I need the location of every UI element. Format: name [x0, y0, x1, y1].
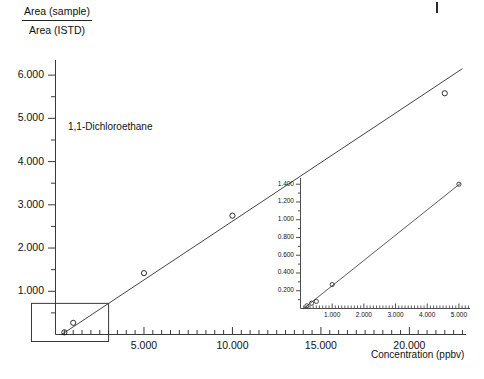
main-plot-canvas	[0, 0, 484, 379]
inset-y-tick-label: 0.200	[262, 286, 294, 293]
inset-x-tick-label: 3.000	[378, 311, 414, 318]
main-y-tick-label: 2.000	[2, 241, 44, 253]
inset-y-tick-label: 0.400	[262, 268, 294, 275]
main-data-marker	[141, 271, 146, 276]
inset-x-tick-label: 2.000	[346, 311, 382, 318]
inset-zoom-region-box	[32, 303, 109, 341]
inset-y-tick-label: 1.400	[262, 180, 294, 187]
inset-y-tick-label: 1.200	[262, 197, 294, 204]
main-x-tick-label: 5.000	[114, 339, 174, 351]
main-data-marker	[442, 91, 447, 96]
main-x-tick-label: 20.000	[379, 339, 439, 351]
inset-x-tick-label: 1.000	[314, 311, 350, 318]
inset-y-tick-label: 0.800	[262, 233, 294, 240]
main-data-points	[62, 91, 448, 335]
main-y-tick-label: 1.000	[2, 284, 44, 296]
main-y-tick-label: 6.000	[2, 68, 44, 80]
page-scan-artifact	[436, 2, 438, 13]
main-y-tick-label: 3.000	[2, 198, 44, 210]
inset-x-tick-label: 4.000	[409, 311, 445, 318]
inset-fit-line	[304, 183, 461, 308]
main-data-marker	[230, 213, 235, 218]
inset-y-tick-label: 0.600	[262, 251, 294, 258]
main-y-tick-label: 4.000	[2, 155, 44, 167]
main-x-axis-ticks	[64, 327, 462, 335]
main-x-tick-label: 10.000	[202, 339, 262, 351]
main-data-marker	[71, 320, 76, 325]
main-y-axis-ticks	[48, 75, 56, 313]
inset-x-axis-ticks	[304, 304, 469, 309]
inset-y-axis-ticks	[296, 184, 301, 299]
inset-data-marker	[314, 299, 318, 303]
calibration-curve-figure: Area (sample) Area (ISTD) 1,1-Dichloroet…	[0, 0, 484, 379]
main-x-tick-label: 15.000	[291, 339, 351, 351]
main-y-tick-label: 5.000	[2, 111, 44, 123]
inset-x-tick-label: 5.000	[441, 311, 477, 318]
inset-y-tick-label: 1.000	[262, 215, 294, 222]
